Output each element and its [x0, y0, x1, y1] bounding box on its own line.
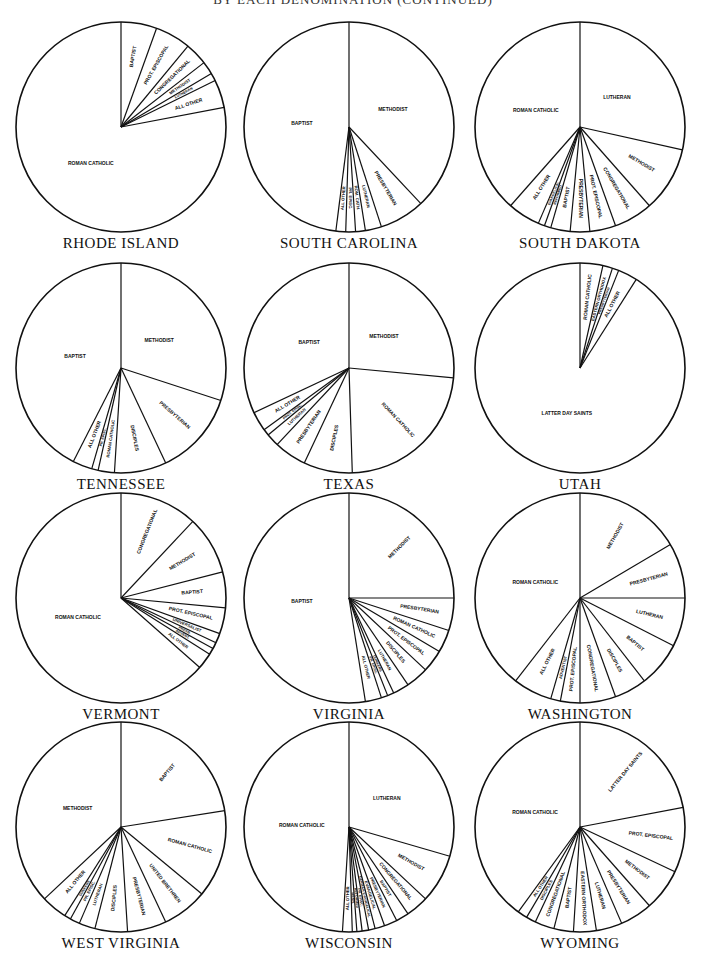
slice-label: BAPTIST: [291, 598, 312, 604]
slice-label: BAPTIST: [291, 120, 312, 126]
slice-label: METHODIST: [369, 333, 398, 339]
page-header: BY EACH DENOMINATION (CONTINUED): [0, 0, 706, 8]
pie-chart-tennessee: METHODISTPRESBYTERIANDISCIPLESROMAN CATH…: [12, 259, 230, 477]
pie-chart-wyoming: LATTER DAY SAINTSPROT. EPISCOPALMETHODIS…: [471, 718, 689, 936]
slice-label: ROMAN CATHOLIC: [513, 107, 559, 113]
state-title: RHODE ISLAND: [21, 235, 221, 252]
slice-label: METHODIST: [378, 106, 407, 112]
slice-label: ROMAN CATHOLIC: [55, 614, 101, 620]
pie-chart-washington: METHODISTPRESBYTERIANLUTHERANBAPTISTDISC…: [471, 489, 689, 707]
pie-chart-rhode-island: BAPTISTPROT. EPISCOPALCONGREGATIONALMETH…: [12, 18, 230, 236]
pie-chart-utah: ROMAN CATHOLICEASTERN ORTHODOXPRESBYTERI…: [471, 259, 689, 477]
slice-label: ROMAN CATHOLIC: [512, 579, 558, 585]
slice-label: METHODIST: [63, 805, 92, 811]
state-title: WEST VIRGINIA: [21, 935, 221, 952]
slice-label: ROMAN CATHOLIC: [512, 809, 558, 815]
state-title: WYOMING: [480, 935, 680, 952]
slice-label: LUTHERAN: [373, 795, 401, 801]
pie-chart-vermont: CONGREGATIONALMETHODISTBAPTISTPROT. EPIS…: [12, 489, 230, 707]
slice-label: BAPTIST: [64, 353, 85, 359]
pie-chart-virginia: METHODISTPRESBYTERIANROMAN CATHOLICPROT.…: [240, 489, 458, 707]
slice-label: ROMAN CATHOLIC: [68, 160, 114, 166]
slice-label: LUTHERAN: [603, 94, 631, 100]
slice-label: ROMAN CATHOLIC: [279, 822, 325, 828]
pie-chart-texas: METHODISTROMAN CATHOLICDISCIPLESPRESBYTE…: [240, 259, 458, 477]
slice-label: PRESBYTERIAN: [578, 179, 584, 219]
state-title: WISCONSIN: [249, 935, 449, 952]
pie-chart-west-virginia: BAPTISTROMAN CATHOLICUNITED BRETHRENPRES…: [12, 718, 230, 936]
slice-label: METHODIST: [144, 337, 173, 343]
slice-label: BAPTIST: [298, 339, 319, 345]
pie-chart-south-dakota: LUTHERANMETHODISTCONGREGATIONALPROT. EPI…: [471, 18, 689, 236]
state-title: SOUTH DAKOTA: [480, 235, 680, 252]
slice-label: LATTER DAY SAINTS: [542, 410, 593, 416]
pie-chart-south-carolina: METHODISTPRESBYTERIANLUTHERANROM. CATH.P…: [240, 18, 458, 236]
pie-chart-wisconsin: LUTHERANMETHODISTCONGREGATIONALBAPTISTPR…: [240, 718, 458, 936]
state-title: SOUTH CAROLINA: [249, 235, 449, 252]
slice-label: PR. EPISC.: [348, 187, 353, 209]
